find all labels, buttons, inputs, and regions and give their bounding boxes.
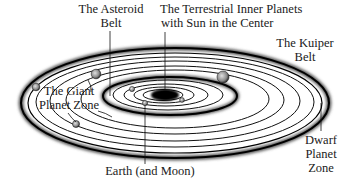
solar-system-diagram: The Asteroid Belt The Terrestrial Inner …	[0, 0, 350, 192]
label-terrestrial-planets: The Terrestrial Inner Planets with Sun i…	[160, 2, 340, 30]
planet-saturn	[91, 69, 101, 79]
sun	[151, 89, 179, 101]
label-kuiper-belt: The Kuiper Belt	[270, 36, 340, 64]
leader-giant-zone-3	[68, 113, 76, 122]
planet-mars	[129, 86, 134, 91]
planet-venus	[180, 98, 185, 103]
label-earth-and-moon: Earth (and Moon)	[95, 164, 205, 178]
label-asteroid-belt: The Asteroid Belt	[76, 2, 146, 30]
planet-jupiter	[217, 71, 229, 83]
label-giant-planet-zone: The Giant Planet Zone	[34, 84, 104, 112]
label-dwarf-planet-zone: Dwarf Planet Zone	[296, 133, 346, 175]
planet-earth	[142, 100, 147, 105]
